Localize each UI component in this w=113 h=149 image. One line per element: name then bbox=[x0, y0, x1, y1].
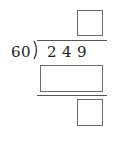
divisor: 60 bbox=[11, 43, 31, 61]
division-bracket-top-line bbox=[37, 40, 107, 41]
remainder-answer-box[interactable] bbox=[77, 99, 103, 126]
subtraction-line bbox=[37, 95, 107, 96]
dividend-digit-ones: 9 bbox=[77, 43, 92, 61]
dividend-digit-tens: 4 bbox=[62, 43, 77, 61]
product-answer-box[interactable] bbox=[40, 65, 103, 92]
dividend: 2 4 9 bbox=[47, 43, 92, 61]
dividend-digit-hundreds: 2 bbox=[47, 43, 62, 61]
division-bracket-icon bbox=[33, 40, 39, 60]
quotient-answer-box[interactable] bbox=[77, 10, 103, 36]
